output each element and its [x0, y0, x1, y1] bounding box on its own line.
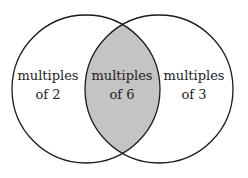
venn-diagram: multiples of 2 multiples of 6 multiples …: [0, 0, 248, 178]
intersection-region: [85, 15, 233, 163]
label-right-line1: multiples: [163, 68, 224, 83]
label-left-line1: multiples: [17, 68, 78, 83]
label-left-line2: of 2: [35, 87, 60, 102]
label-right-line2: of 3: [181, 87, 206, 102]
label-intersection-line2: of 6: [109, 87, 134, 102]
label-intersection-line1: multiples: [91, 68, 152, 83]
